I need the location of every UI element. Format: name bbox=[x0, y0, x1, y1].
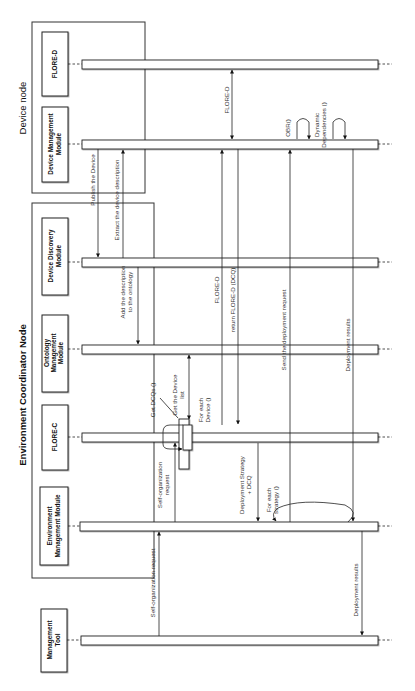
svg-text:Send the deployment request: Send the deployment request bbox=[280, 289, 287, 370]
svg-text:Add the description: Add the description bbox=[119, 265, 126, 319]
svg-text:Get the Device: Get the Device bbox=[171, 374, 178, 415]
message-obr: OBR() bbox=[284, 119, 309, 140]
lifeline-device-discovery-module bbox=[82, 258, 378, 267]
lifeline-device-management-module bbox=[82, 140, 378, 149]
message-add-description-to-ontology: Add the description to the ontology bbox=[119, 265, 138, 344]
device-node-title: Device node bbox=[17, 82, 28, 135]
sequence-diagram: Device node Environment Coordinator Node… bbox=[0, 0, 415, 691]
message-send-deployment-request: Send the deployment request bbox=[280, 150, 290, 522]
svg-text:For each: For each bbox=[197, 397, 204, 422]
message-return-flore-d-dcq: return FLORE-D (DCQ) bbox=[229, 149, 238, 424]
message-deployment-strategy-dcq: Deployment Strategy + DCQ bbox=[238, 443, 258, 521]
svg-text:Deployment results: Deployment results bbox=[352, 564, 359, 617]
message-deployment-results-emm: Deployment results bbox=[352, 531, 362, 635]
svg-text:Device (): Device () bbox=[204, 398, 211, 423]
svg-text:list: list bbox=[178, 391, 185, 399]
svg-text:to the ontology: to the ontology bbox=[126, 271, 133, 312]
message-for-each-strategy: For each strategy () bbox=[265, 486, 353, 522]
participant-management-tool[interactable]: Management Tool bbox=[41, 609, 392, 672]
participant-flore-c[interactable]: FLORE-C bbox=[42, 405, 392, 470]
svg-text:Module: Module bbox=[57, 341, 64, 364]
svg-text:return FLORE-D (DCQ): return FLORE-D (DCQ) bbox=[229, 268, 236, 333]
message-extract-device-description: Extract the device description bbox=[113, 150, 123, 258]
svg-text:Deployment results: Deployment results bbox=[344, 319, 351, 372]
svg-text:strategy (): strategy () bbox=[272, 486, 279, 514]
svg-text:Device Management: Device Management bbox=[47, 112, 55, 174]
svg-text:FLORE-D: FLORE-D bbox=[213, 276, 220, 304]
message-deployment-results-dmm: Deployment results bbox=[344, 149, 353, 521]
svg-text:Self-organization request: Self-organization request bbox=[149, 548, 156, 617]
device-node-frame: Device node bbox=[17, 22, 145, 193]
svg-text:Dependencies (): Dependencies () bbox=[320, 102, 327, 147]
svg-text:Module: Module bbox=[55, 132, 62, 155]
svg-text:Extract the device description: Extract the device description bbox=[113, 159, 120, 240]
svg-text:Self-organization: Self-organization bbox=[156, 461, 163, 508]
environment-coordinator-node-title: Environment Coordinator Node bbox=[17, 324, 28, 465]
svg-text:Environment: Environment bbox=[46, 506, 53, 546]
lifeline-management-tool bbox=[81, 636, 378, 645]
svg-text:For each: For each bbox=[265, 487, 272, 512]
lifeline-flore-d bbox=[82, 60, 378, 69]
participant-environment-management-module[interactable]: Environment Management Module bbox=[40, 487, 392, 565]
svg-text:FLORE-D: FLORE-D bbox=[223, 86, 230, 114]
diagram-svg: Device node Environment Coordinator Node… bbox=[0, 0, 415, 691]
svg-text:FLORE-C: FLORE-C bbox=[51, 422, 58, 451]
svg-text:Publish the Device: Publish the Device bbox=[89, 154, 96, 206]
participant-flore-d[interactable]: FLORE-D bbox=[42, 32, 392, 96]
svg-text:Deployment Strategy: Deployment Strategy bbox=[238, 455, 245, 514]
svg-text:Dynamic: Dynamic bbox=[313, 113, 320, 137]
svg-text:Module: Module bbox=[55, 244, 62, 267]
message-flore-d-device: FLORE-D bbox=[223, 70, 232, 139]
message-flore-d-request: FLORE-D bbox=[213, 150, 222, 425]
svg-text:Device Discovery: Device Discovery bbox=[47, 229, 55, 282]
activation-flore-c-nested bbox=[183, 425, 192, 450]
svg-text:FLORE-D: FLORE-D bbox=[51, 49, 58, 78]
participant-ontology-management-module[interactable]: Ontology Management Module bbox=[42, 315, 392, 392]
message-self-organization-request-emm: Self-organization request bbox=[156, 443, 175, 522]
svg-text:Management: Management bbox=[46, 620, 54, 660]
svg-text:Get DCQs (): Get DCQs () bbox=[149, 383, 156, 417]
svg-text:request: request bbox=[163, 474, 170, 495]
lifeline-ontology-management-module bbox=[82, 345, 378, 354]
lifeline-environment-management-module bbox=[80, 522, 378, 531]
lifeline-flore-c bbox=[82, 433, 378, 442]
svg-text:Management Module: Management Module bbox=[54, 494, 62, 558]
message-get-the-device-list: Get the Device list bbox=[171, 355, 189, 419]
svg-text:OBR(): OBR() bbox=[284, 119, 291, 137]
svg-text:Tool: Tool bbox=[54, 633, 61, 646]
svg-text:+ DCQ: + DCQ bbox=[245, 475, 252, 494]
